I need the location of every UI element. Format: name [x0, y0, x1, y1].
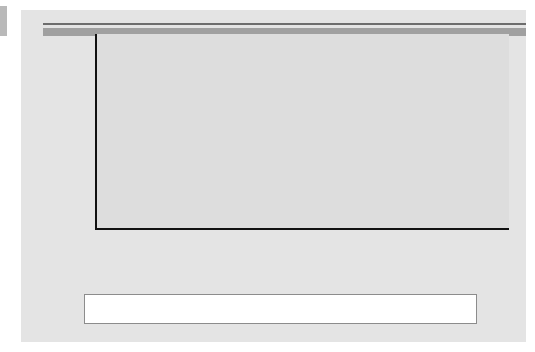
x-axis-labels	[95, 238, 509, 286]
chart-figure	[21, 10, 526, 342]
bar-series-group	[97, 34, 509, 228]
plot-area-wrapper	[59, 34, 509, 249]
header-rule-thin	[43, 23, 526, 25]
y-axis-ticks	[59, 34, 95, 230]
plot-area	[95, 34, 509, 230]
page-edge-artifact	[0, 6, 7, 36]
chart-legend	[84, 294, 477, 324]
y-axis-label	[39, 110, 57, 200]
page	[0, 0, 535, 352]
